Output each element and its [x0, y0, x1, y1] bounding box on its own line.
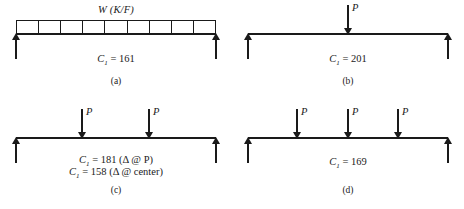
beam-line: [248, 137, 448, 139]
coefficient-subscript: 1: [104, 59, 108, 67]
panel-a: W (K/F) C1 = 161 (a): [0, 0, 232, 104]
coefficient-label-line-2: C1 = 158 (Δ @ center): [0, 166, 232, 183]
beam-line: [16, 137, 216, 139]
panel-caption: (d): [232, 185, 464, 195]
load-cell: [150, 21, 172, 33]
load-cell: [128, 21, 150, 33]
arrow-shaft: [81, 109, 83, 133]
load-cell: [39, 21, 61, 33]
point-load-2: P: [143, 109, 155, 139]
arrow-shaft: [148, 109, 150, 133]
coefficient-label: C1 = 169: [232, 156, 464, 173]
point-load-1: P: [76, 109, 88, 139]
coefficient-label: C1 = 161: [0, 53, 232, 70]
point-load-3: P: [392, 109, 404, 139]
coefficient-value: 158: [91, 166, 107, 177]
coefficient-label: C1 = 201: [232, 53, 464, 70]
distributed-load-label: W (K/F): [0, 4, 232, 15]
point-load-label: P: [402, 106, 408, 117]
distributed-load-box: [16, 20, 216, 34]
point-load-1: P: [342, 5, 354, 35]
load-cell: [172, 21, 194, 33]
panel-caption: (a): [0, 76, 232, 86]
coefficient-value: 201: [351, 53, 367, 64]
coefficient-note: (Δ @ center): [109, 166, 163, 177]
panel-b: P C1 = 201 (b): [232, 0, 464, 104]
arrow-shaft: [296, 109, 298, 133]
panel-caption: (c): [0, 185, 232, 195]
panel-c: P P C1 = 181 (Δ @ P) C1 = 158 (Δ @ cente…: [0, 105, 232, 209]
load-cell: [61, 21, 83, 33]
coefficient-equals: =: [82, 166, 88, 177]
load-cell: [17, 21, 39, 33]
beam-line: [248, 33, 448, 35]
panel-d: P P P C1 = 169 (d): [232, 105, 464, 209]
coefficient-equals: =: [110, 53, 116, 64]
load-cell: [83, 21, 105, 33]
panel-caption: (b): [232, 76, 464, 86]
point-load-1: P: [291, 109, 303, 139]
arrow-shaft: [347, 109, 349, 133]
coefficient-value: 169: [351, 156, 367, 167]
coefficient-value: 161: [119, 53, 135, 64]
beam-line: [16, 33, 216, 35]
point-load-2: P: [342, 109, 354, 139]
arrow-shaft: [347, 5, 349, 29]
coefficient-subscript: 1: [336, 59, 340, 67]
point-load-label: P: [86, 106, 92, 117]
load-cell: [194, 21, 215, 33]
point-load-label: P: [352, 106, 358, 117]
beam-diagram-figure: W (K/F) C1 = 161 (a): [0, 0, 464, 209]
coefficient-subscript: 1: [76, 172, 80, 180]
coefficient-subscript: 1: [336, 162, 340, 170]
point-load-label: P: [352, 2, 358, 13]
coefficient-equals: =: [342, 156, 348, 167]
coefficient-value: 181: [101, 154, 117, 165]
coefficient-equals: =: [92, 154, 98, 165]
coefficient-symbol: C: [79, 154, 86, 165]
arrow-shaft: [397, 109, 399, 133]
coefficient-equals: =: [342, 53, 348, 64]
point-load-label: P: [301, 106, 307, 117]
coefficient-note: (Δ @ P): [119, 154, 153, 165]
point-load-label: P: [153, 106, 159, 117]
load-cell: [105, 21, 127, 33]
